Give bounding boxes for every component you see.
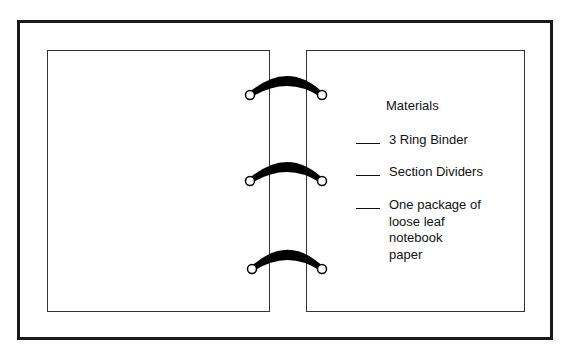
checklist-item: 3 Ring Binder bbox=[356, 132, 468, 149]
checkbox-blank-line[interactable] bbox=[356, 164, 380, 176]
checkbox-blank-line[interactable] bbox=[356, 132, 380, 144]
ring-icon bbox=[248, 253, 327, 274]
checklist-title: Materials bbox=[386, 98, 439, 113]
ring-icon bbox=[246, 79, 327, 100]
checkbox-blank-line[interactable] bbox=[356, 197, 380, 209]
ring-icon bbox=[246, 165, 327, 186]
checklist-item: One package of loose leaf notebook paper bbox=[356, 197, 481, 263]
checklist-item: Section Dividers bbox=[356, 164, 483, 181]
binder-rings bbox=[0, 0, 575, 361]
checklist-item-label: 3 Ring Binder bbox=[389, 132, 468, 149]
checklist-item-label: Section Dividers bbox=[389, 164, 483, 181]
checklist-item-label: One package of loose leaf notebook paper bbox=[389, 197, 481, 263]
